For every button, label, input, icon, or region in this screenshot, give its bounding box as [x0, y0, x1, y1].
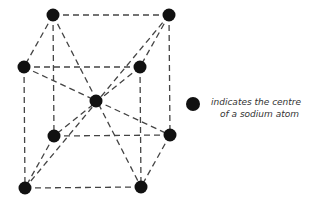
edge-top-back-right-to-bottom-back-right — [169, 15, 170, 135]
atom-bottom-back-left — [48, 130, 61, 143]
edge-top-front-right-to-bottom-front-right — [140, 67, 141, 187]
edge-top-back-right-to-top-front-right — [140, 15, 169, 67]
atom-top-front-left — [18, 61, 31, 74]
atom-legend-icon — [186, 97, 200, 111]
edge-top-back-left-to-bottom-back-left — [53, 15, 54, 136]
atom-top-back-right — [163, 9, 176, 22]
edge-bottom-back-right-to-bottom-front-right — [141, 135, 170, 187]
edge-bottom-back-left-to-bottom-front-left — [25, 136, 54, 188]
atom-bottom-front-left — [19, 182, 32, 195]
atom-bottom-back-right — [164, 129, 177, 142]
edge-top-back-left-to-top-front-left — [24, 15, 53, 67]
atom-top-front-right — [134, 61, 147, 74]
atom-top-back-left — [47, 9, 60, 22]
edge-bottom-front-left-to-bottom-front-right — [25, 187, 141, 188]
legend-line-1: indicates the centre — [211, 97, 301, 107]
legend-line-2: of a sodium atom — [211, 108, 301, 120]
edge-bottom-back-left-to-bottom-back-right — [54, 135, 170, 136]
atom-bottom-front-right — [135, 181, 148, 194]
legend-text: indicates the centre of a sodium atom — [211, 96, 301, 120]
edge-top-front-left-to-bottom-front-left — [24, 67, 25, 188]
atom-centre — [90, 95, 103, 108]
